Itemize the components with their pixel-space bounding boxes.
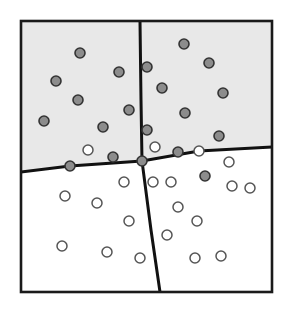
data-point-filled: [142, 62, 152, 72]
data-point-filled: [137, 156, 147, 166]
data-point-open: [227, 181, 237, 191]
data-point-open: [83, 145, 93, 155]
data-point-open: [102, 247, 112, 257]
data-point-filled: [39, 116, 49, 126]
data-point-open: [148, 177, 158, 187]
data-point-filled: [51, 76, 61, 86]
data-point-filled: [157, 83, 167, 93]
data-point-filled: [142, 125, 152, 135]
data-point-open: [216, 251, 226, 261]
data-point-open: [166, 177, 176, 187]
scatter-svg-canvas: [0, 0, 292, 309]
data-point-filled: [65, 161, 75, 171]
data-point-open: [135, 253, 145, 263]
data-point-filled: [180, 108, 190, 118]
data-point-filled: [200, 171, 210, 181]
data-point-open: [224, 157, 234, 167]
data-point-open: [150, 142, 160, 152]
data-point-open: [57, 241, 67, 251]
data-point-filled: [214, 131, 224, 141]
data-point-open: [119, 177, 129, 187]
data-point-filled: [124, 105, 134, 115]
scatter-plot-figure: [0, 0, 292, 309]
data-point-open: [192, 216, 202, 226]
data-point-filled: [98, 122, 108, 132]
data-point-open: [190, 253, 200, 263]
data-point-open: [245, 183, 255, 193]
data-point-filled: [73, 95, 83, 105]
data-point-filled: [179, 39, 189, 49]
data-point-open: [173, 202, 183, 212]
data-point-filled: [114, 67, 124, 77]
data-point-open: [60, 191, 70, 201]
data-point-open: [194, 146, 204, 156]
data-point-filled: [108, 152, 118, 162]
data-point-filled: [204, 58, 214, 68]
data-point-filled: [173, 147, 183, 157]
data-point-filled: [75, 48, 85, 58]
data-point-filled: [218, 88, 228, 98]
data-point-open: [162, 230, 172, 240]
data-point-open: [124, 216, 134, 226]
data-point-open: [92, 198, 102, 208]
